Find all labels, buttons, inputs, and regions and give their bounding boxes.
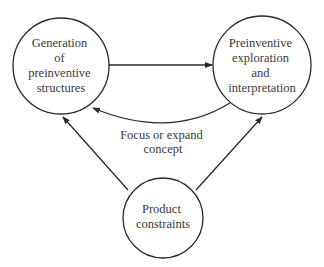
- label-focus-or-expand: Focus or expand concept: [120, 128, 206, 156]
- diagram-canvas: Generation of preinventive structures Pr…: [0, 0, 324, 267]
- edge-constraints-to-generation: [63, 117, 128, 190]
- node-exploration: [213, 16, 311, 114]
- label-exploration: Preinventive exploration and interpretat…: [228, 36, 296, 95]
- edge-exploration-to-generation: [93, 103, 230, 123]
- edge-constraints-to-exploration: [196, 117, 262, 190]
- label-constraints: Product constraints: [136, 202, 190, 231]
- label-generation: Generation of preinventive structures: [28, 36, 94, 95]
